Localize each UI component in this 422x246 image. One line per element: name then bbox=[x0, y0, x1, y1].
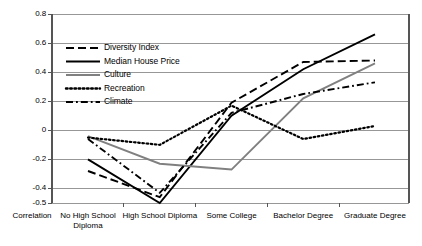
y-tick-label: 0.6 bbox=[35, 38, 46, 47]
y-tick-label: 0.4 bbox=[35, 67, 46, 76]
legend-label-median-house-price: Median House Price bbox=[104, 56, 180, 66]
x-tick-label-some-college: Some College bbox=[191, 211, 273, 221]
y-tick-label: 0.8 bbox=[35, 9, 46, 18]
legend-label-diversity-index: Diversity Index bbox=[104, 42, 159, 52]
y-tick-label: -0.4 bbox=[33, 183, 46, 192]
x-axis-ticks bbox=[124, 203, 339, 207]
x-tick-label-no-high-school-diploma: No High School Diploma bbox=[47, 211, 129, 230]
x-tick-label-graduate-degree: Graduate Degree bbox=[334, 211, 416, 221]
series-line-diversity-index bbox=[88, 61, 375, 198]
y-tick-label: 0 bbox=[42, 125, 46, 134]
x-tick-label-bachelor-degree: Bachelor Degree bbox=[262, 211, 344, 221]
chart-canvas bbox=[0, 0, 422, 246]
legend-label-culture: Culture bbox=[104, 69, 131, 79]
y-tick-label: 0.2 bbox=[35, 96, 46, 105]
legend-label-climate: Climate bbox=[104, 96, 132, 106]
x-tick-label-high-school-diploma: High School Diploma bbox=[119, 211, 201, 221]
series-line-recreation bbox=[88, 106, 375, 145]
y-tick-label: -0.2 bbox=[33, 154, 46, 163]
y-axis-ticks bbox=[48, 14, 52, 203]
legend-label-recreation: Recreation bbox=[104, 83, 145, 93]
correlation-line-chart: 0.80.60.40.20-0.2-0.4-0.5 CorrelationNo … bbox=[0, 0, 422, 246]
legend-swatches bbox=[66, 48, 100, 102]
y-tick-label: -0.5 bbox=[33, 198, 46, 207]
